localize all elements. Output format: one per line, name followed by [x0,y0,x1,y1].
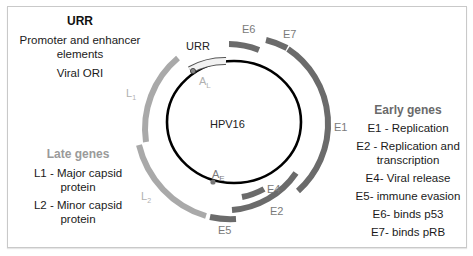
l2-label: L2 [141,190,151,204]
l1-label: L1 [126,87,136,101]
e1-arc [288,49,328,191]
e1-label: E1 [334,121,347,133]
late-promoter-marker [190,68,195,73]
e7-arc [266,40,287,48]
e7-label: E7 [283,28,296,40]
e6-arc [229,44,259,50]
urr-region-fill [190,61,226,70]
e4-label: E4 [267,183,280,195]
promoter-al-label: AL [199,75,211,90]
early-promoter-marker [210,179,215,184]
l2-arc [139,145,206,216]
e2-label: E2 [270,205,283,217]
e4-arc [242,189,264,197]
e5-arc [210,217,236,219]
e5-label: E5 [218,224,231,236]
e6-label: E6 [242,23,255,35]
l1-arc [145,58,178,142]
genome-map: URR HPV16 AL AE E6 E7 E1 E4 E2 E5 L1 L2 [0,0,473,256]
urr-label: URR [186,40,210,52]
genome-label: HPV16 [210,118,245,130]
